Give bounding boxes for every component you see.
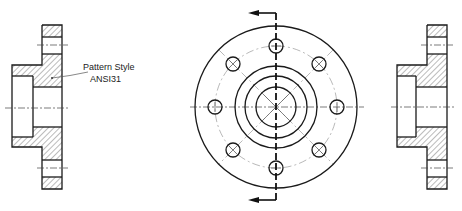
front-view	[190, 10, 364, 203]
bolt-hole	[312, 57, 326, 71]
pattern-name-label: ANSI31	[90, 74, 121, 84]
technical-drawing: Pattern Style ANSI31	[0, 0, 462, 211]
arrowhead-icon	[248, 197, 259, 203]
arrowhead-icon	[248, 10, 259, 16]
pattern-style-label: Pattern Style	[83, 62, 135, 72]
flange-outline	[12, 25, 62, 189]
bolt-hole	[226, 143, 240, 157]
bolt-hole	[330, 100, 344, 114]
leader-dot	[51, 77, 53, 79]
bolt-hole	[312, 143, 326, 157]
left-section-view: Pattern Style ANSI31	[5, 25, 135, 189]
bolt-hole	[226, 57, 240, 71]
right-section-view	[391, 25, 454, 189]
hatch-regions	[12, 25, 62, 189]
